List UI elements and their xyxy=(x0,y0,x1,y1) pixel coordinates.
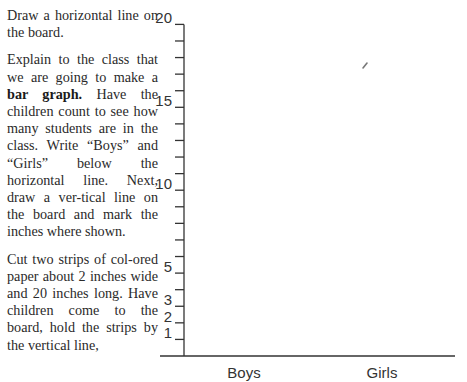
category-label-girls: Girls xyxy=(367,364,398,381)
y-tick-label: 10 xyxy=(155,175,172,192)
print-smudge xyxy=(363,63,367,68)
category-label-boys: Boys xyxy=(227,364,260,381)
y-tick-label: 1 xyxy=(164,324,172,341)
bar-graph-template: 1235101520 BoysGirls xyxy=(0,0,467,382)
y-tick-label: 15 xyxy=(155,92,172,109)
y-tick-label: 2 xyxy=(164,308,172,325)
y-tick-label: 20 xyxy=(155,9,172,26)
y-tick-label: 5 xyxy=(164,258,172,275)
y-tick-label: 3 xyxy=(164,291,172,308)
